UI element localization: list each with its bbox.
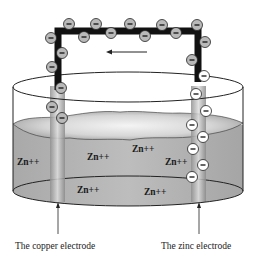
electron-icon [46, 33, 57, 44]
zinc-electrode-caption: The zinc electrode [161, 241, 231, 251]
electron-icon [47, 62, 58, 73]
electron-icon [56, 83, 67, 94]
electron-icon [198, 132, 209, 143]
electron-icon [192, 20, 203, 31]
electron-icon [171, 28, 182, 39]
copper-electrode-caption: The copper electrode [15, 241, 95, 251]
electrochemical-cell-diagram: Zn++ Zn++ Zn++ Zn++ Zn++ Zn++ The copper… [0, 0, 257, 263]
electron-icon [125, 19, 136, 30]
zn-ion-label: Zn++ [165, 157, 187, 167]
electron-icon [57, 48, 68, 59]
electron-icon [106, 28, 117, 39]
electron-icon [91, 19, 102, 30]
electron-icon [187, 172, 198, 183]
electron-icon [47, 102, 58, 113]
solution [13, 111, 243, 206]
zn-ion-label: Zn++ [144, 187, 166, 197]
electron-icon [199, 71, 210, 82]
electron-icon [198, 160, 209, 171]
zn-ion-label: Zn++ [132, 144, 154, 154]
zn-ion-label: Zn++ [77, 185, 99, 195]
electron-icon [140, 31, 151, 42]
zn-ion-label: Zn++ [17, 157, 39, 167]
electron-icon [64, 19, 75, 30]
electron-icon [188, 144, 199, 155]
electron-icon [200, 37, 211, 48]
electron-icon [79, 32, 90, 43]
electron-icon [187, 55, 198, 66]
zn-ion-label: Zn++ [87, 152, 109, 162]
electron-icon [57, 113, 68, 124]
electron-flow-arrow-icon [106, 50, 147, 55]
electron-icon [187, 120, 198, 131]
pointer-arrows [56, 202, 201, 234]
electron-icon [157, 20, 168, 31]
electron-icon [201, 106, 212, 117]
electron-icon [191, 89, 202, 100]
